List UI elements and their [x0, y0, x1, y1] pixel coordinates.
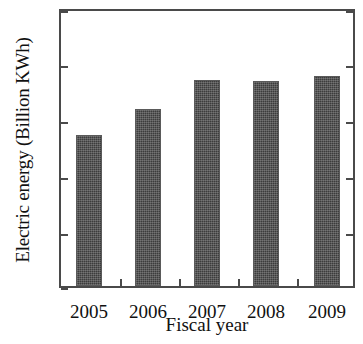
y-tick-10	[61, 11, 68, 13]
y-tick-5	[61, 288, 68, 290]
plot-area: 10 9 8 7 6 5	[59, 9, 355, 288]
bar-2009	[314, 76, 340, 286]
plot-inner: 10 9 8 7 6 5	[61, 11, 353, 286]
y-tick-9	[61, 66, 68, 68]
bar-2005	[76, 135, 102, 286]
bar-2007	[194, 80, 220, 286]
y-tick-right-6	[346, 234, 353, 236]
y-tick-right-10	[346, 11, 353, 13]
x-tick-3	[238, 279, 240, 286]
x-tick-1	[120, 279, 122, 286]
bar-2008	[253, 81, 279, 286]
x-tick-4	[297, 279, 299, 286]
y-tick-right-8	[346, 122, 353, 124]
y-tick-6	[61, 234, 68, 236]
bar-chart: Electric energy (Billion KWh) 10 9 8 7 6…	[0, 0, 363, 344]
bar-2006	[135, 109, 161, 286]
y-axis-title: Electric energy (Billion KWh)	[12, 5, 34, 295]
x-axis-title: Fiscal year	[59, 314, 355, 336]
y-tick-right-9	[346, 66, 353, 68]
x-tick-2	[179, 279, 181, 286]
y-tick-right-7	[346, 178, 353, 180]
y-tick-7	[61, 178, 68, 180]
y-tick-8	[61, 122, 68, 124]
